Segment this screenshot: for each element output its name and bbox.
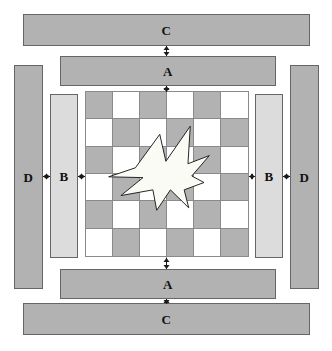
arrow-left-d-to-b	[43, 172, 50, 181]
arrow-bottom-board-to-a	[162, 258, 171, 269]
arrow-right-board-to-b	[249, 172, 255, 181]
arrow-right-b-to-d	[283, 172, 290, 181]
arrow-bottom-a-to-c	[162, 299, 171, 304]
arrow-top-a-to-board	[162, 86, 171, 92]
arrow-markers	[0, 0, 332, 351]
arrow-left-b-to-board	[78, 172, 85, 181]
arrow-top-c-to-a	[162, 46, 171, 56]
diagram-canvas: C A D D B B A C	[0, 0, 332, 351]
